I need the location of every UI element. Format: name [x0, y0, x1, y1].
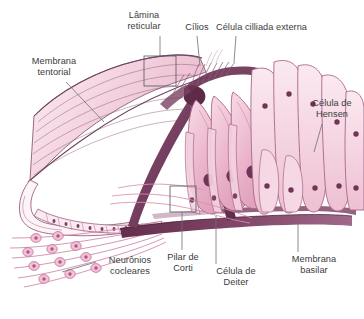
- label-membrana-basilar: Membrana basilar: [282, 254, 346, 277]
- label-celula-de-hensen: Célula de Hensen: [302, 98, 362, 121]
- label-celula-cilliada-externa: Célula cilliada externa: [216, 22, 346, 33]
- stereocilia-tuft-left: [206, 49, 223, 66]
- label-cilios: Cílios: [180, 22, 214, 33]
- figure-canvas: Lâmina reticular Cílios Célula cilliada …: [0, 0, 364, 319]
- leader-celula-cilliada-externa: [234, 36, 236, 62]
- label-lamina-reticular: Lâmina reticular: [112, 10, 176, 33]
- hensen-cells-group: [251, 61, 364, 215]
- label-membrana-tentorial: Membrana tentorial: [20, 56, 88, 79]
- label-pilar-de-corti: Pilar de Corti: [158, 252, 208, 275]
- label-celula-de-deiter: Célula de Deiter: [206, 266, 266, 289]
- label-neuronios-cocleares: Neurônios cocleares: [98, 255, 162, 278]
